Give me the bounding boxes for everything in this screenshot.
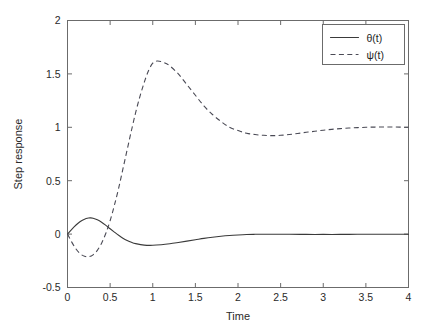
x-tick-label: 0.5 [103,291,118,303]
legend-label-psi: ψ(t) [367,49,384,61]
y-tick-label: 1.5 [46,68,61,80]
step-response-chart: 00.511.522.533.54-0.500.511.52TimeStep r… [0,0,425,335]
x-tick-label: 1 [150,291,156,303]
x-tick-label: 1.5 [188,291,203,303]
legend-label-theta: θ(t) [367,32,383,44]
y-axis-title: Step response [12,119,24,190]
figure-container: 00.511.522.533.54-0.500.511.52TimeStep r… [0,0,425,335]
x-tick-label: 2 [235,291,241,303]
y-tick-label: 0.5 [46,175,61,187]
series-line-psi [68,61,409,257]
series-line-theta [68,218,409,246]
x-axis-title: Time [226,310,250,322]
y-tick-label: 2 [55,14,61,26]
y-tick-label: 0 [55,228,61,240]
y-tick-label: -0.5 [42,281,60,293]
chart-legend: θ(t)ψ(t) [323,25,405,65]
x-tick-label: 2.5 [273,291,288,303]
legend-box [323,25,405,65]
x-tick-label: 3.5 [359,291,374,303]
y-tick-label: 1 [55,121,61,133]
x-tick-label: 3 [320,291,326,303]
x-tick-label: 0 [65,291,71,303]
data-series [68,61,409,257]
x-tick-label: 4 [406,291,412,303]
